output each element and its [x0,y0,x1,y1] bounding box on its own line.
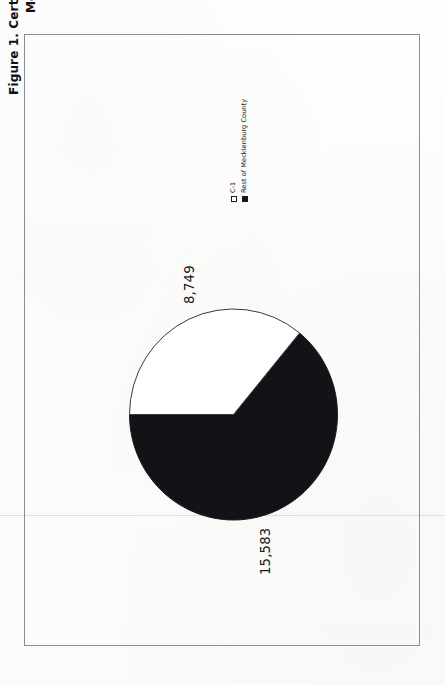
scanned-page: Figure 1. Certificates of Occupancy Issu… [0,0,445,685]
pie-chart [128,308,340,526]
pie-chart-svg [128,308,340,526]
